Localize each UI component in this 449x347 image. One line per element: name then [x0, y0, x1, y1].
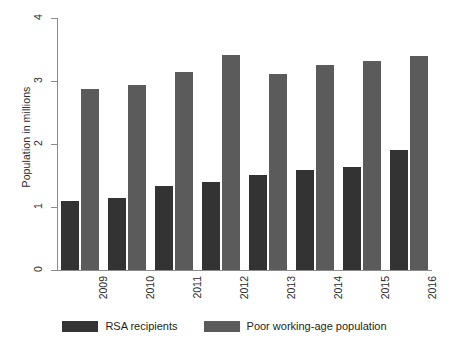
y-axis-tick-label: 2: [32, 133, 44, 153]
bar-2016-series-0: [390, 150, 408, 270]
bar-2010-series-1: [128, 85, 146, 270]
bar-2012-series-0: [202, 182, 220, 270]
legend-item-1: Poor working-age population: [204, 320, 387, 332]
bar-2016-series-1: [410, 56, 428, 270]
bar-chart: Population in millions 01234 20092010201…: [0, 0, 449, 347]
chart-legend: RSA recipientsPoor working-age populatio…: [0, 320, 449, 332]
bar-2010-series-0: [108, 198, 126, 270]
y-axis-tick-label: 3: [32, 70, 44, 90]
bar-2013-series-1: [269, 74, 287, 270]
y-axis-tick-label: 4: [32, 7, 44, 27]
legend-swatch-icon: [204, 321, 240, 332]
bar-2011-series-0: [155, 186, 173, 270]
legend-label: Poor working-age population: [247, 320, 387, 332]
legend-item-0: RSA recipients: [62, 320, 177, 332]
bar-2015-series-0: [343, 167, 361, 270]
x-axis-tick-label: 2014: [332, 276, 344, 310]
legend-label: RSA recipients: [105, 320, 177, 332]
y-axis-tick: [51, 270, 58, 271]
bar-2014-series-0: [296, 170, 314, 270]
x-axis-tick-label: 2012: [238, 276, 250, 310]
x-axis-tick-label: 2016: [426, 276, 438, 310]
bar-2013-series-0: [249, 175, 267, 270]
bar-2011-series-1: [175, 72, 193, 270]
x-axis-tick-label: 2010: [144, 276, 156, 310]
x-axis-line: [57, 270, 432, 271]
x-axis-tick-label: 2013: [285, 276, 297, 310]
bar-2014-series-1: [316, 65, 334, 270]
bars-layer: [57, 18, 432, 270]
bar-2009-series-0: [61, 201, 79, 270]
legend-swatch-icon: [62, 321, 98, 332]
y-axis-tick-label: 1: [32, 196, 44, 216]
x-axis-tick-label: 2011: [191, 276, 203, 310]
bar-2009-series-1: [81, 89, 99, 270]
bar-2012-series-1: [222, 55, 240, 270]
y-axis-tick-label: 0: [32, 259, 44, 279]
x-axis-tick-label: 2009: [97, 276, 109, 310]
bar-2015-series-1: [363, 61, 381, 270]
x-axis-tick-label: 2015: [379, 276, 391, 310]
